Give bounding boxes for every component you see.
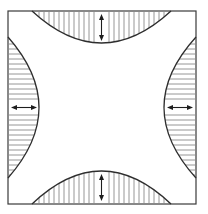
square-lens-diagram <box>0 0 208 214</box>
